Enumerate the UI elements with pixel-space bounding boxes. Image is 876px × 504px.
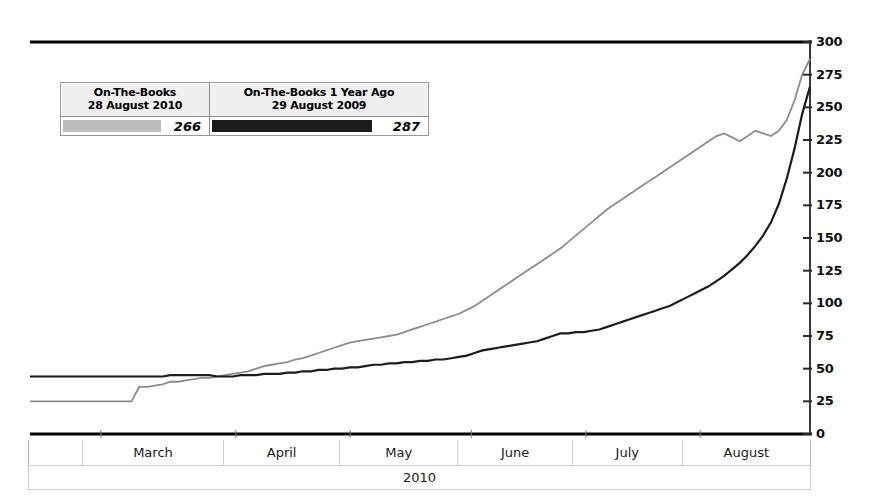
x-axis-band-june: June [458,440,573,465]
legend-title-current-line2: 28 August 2010 [67,99,203,112]
legend-number-prior: 287 [372,119,428,134]
y-tick-label: 200 [816,165,842,180]
legend-value-prior: 287 [209,117,428,135]
chart-legend[interactable]: On-The-Books 28 August 2010 On-The-Books… [60,82,429,136]
x-axis-band-july: July [573,440,683,465]
legend-title-prior-line1: On-The-Books 1 Year Ago [216,86,422,99]
x-axis-month-bands: MarchAprilMayJuneJulyAugust [28,440,811,466]
legend-title-prior-line2: 29 August 2009 [216,99,422,112]
y-tick-label: 100 [816,295,842,310]
legend-header-prior: On-The-Books 1 Year Ago 29 August 2009 [209,83,428,116]
legend-header-current: On-The-Books 28 August 2010 [61,83,209,116]
y-tick-label: 275 [816,67,842,82]
y-tick-label: 75 [816,328,834,343]
y-tick-label: 175 [816,197,842,212]
x-axis-band-partial [29,440,83,465]
chart-svg [0,0,876,504]
y-tick-label: 150 [816,230,842,245]
x-axis-band-march: March [83,440,224,465]
legend-header-row: On-The-Books 28 August 2010 On-The-Books… [61,83,428,117]
y-tick-label: 225 [816,132,842,147]
y-tick-label: 50 [816,361,834,376]
y-tick-label: 125 [816,263,842,278]
x-axis-band-may: May [340,440,458,465]
y-tick-label: 25 [816,393,834,408]
y-tick-label: 0 [816,426,825,441]
legend-number-current: 266 [161,119,209,134]
legend-swatch-current [63,120,161,132]
legend-value-current: 266 [61,117,209,135]
legend-swatch-prior [212,120,372,132]
legend-value-row: 266 287 [61,117,428,135]
x-axis-band-april: April [224,440,340,465]
y-tick-label: 250 [816,99,842,114]
chart-page: 0255075100125150175200225250275300 On-Th… [0,0,876,504]
x-axis-year-band: 2010 [28,466,811,490]
x-axis-band-august: August [683,440,810,465]
legend-title-current-line1: On-The-Books [67,86,203,99]
x-axis-year-label: 2010 [403,470,436,485]
plot-area: 0255075100125150175200225250275300 [0,0,876,504]
y-tick-label: 300 [816,34,842,49]
